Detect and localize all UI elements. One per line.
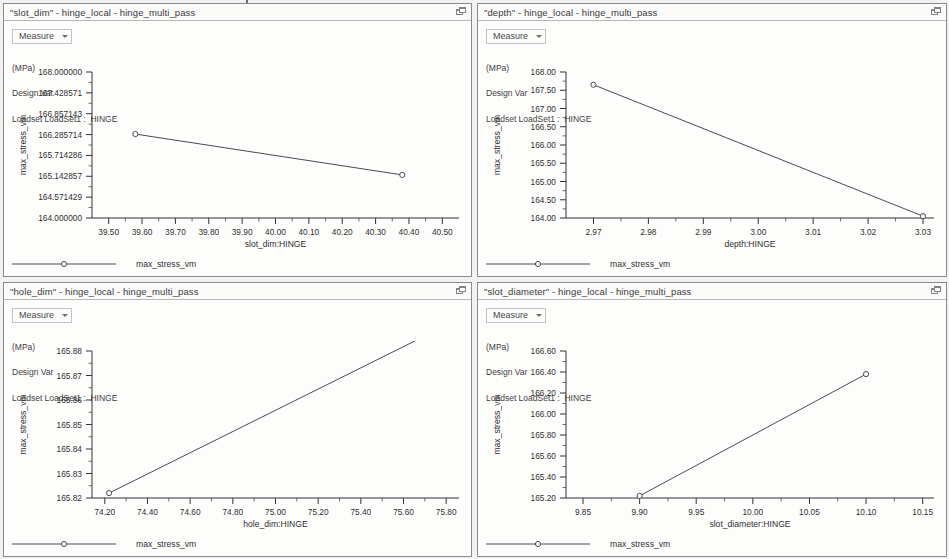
plot-axes: [566, 72, 934, 218]
data-point[interactable]: [400, 172, 405, 177]
x-tick-label: 9.95: [688, 507, 705, 517]
plot-svg: 168.00167.50167.00166.50166.00165.50165.…: [478, 62, 946, 276]
y-tick-label: 168.00: [531, 67, 557, 77]
measure-dropdown-label: Measure: [493, 31, 528, 41]
panel-title: "depth" - hinge_local - hinge_multi_pass: [484, 7, 931, 18]
plot-axes: [92, 351, 459, 498]
y-tick-label: 165.00: [531, 177, 557, 187]
restore-window-icon[interactable]: [456, 286, 467, 297]
plot-panel-0[interactable]: "slot_dim" - hinge_local - hinge_multi_p…: [3, 3, 472, 277]
restore-window-icon[interactable]: [456, 7, 467, 18]
y-tick-label: 165.80: [531, 430, 557, 440]
y-tick-label: 165.84: [57, 444, 83, 454]
y-tick-label: 167.00: [531, 104, 557, 114]
restore-window-icon[interactable]: [931, 7, 942, 18]
measure-dropdown-label: Measure: [19, 310, 54, 320]
chevron-down-icon: [536, 314, 542, 317]
y-tick-label: 166.00: [531, 140, 557, 150]
y-tick-label: 164.571429: [38, 192, 82, 202]
y-axis-title: max_stress_vm: [18, 115, 28, 175]
measure-dropdown-label: Measure: [19, 31, 54, 41]
plot-panel-1[interactable]: "depth" - hinge_local - hinge_multi_pass…: [477, 3, 947, 277]
panel-toolbar: Measure: [478, 21, 946, 44]
measure-dropdown[interactable]: Measure: [486, 308, 546, 323]
plot-panel-2[interactable]: "hole_dim" - hinge_local - hinge_multi_p…: [3, 282, 472, 557]
x-tick-label: 10.10: [856, 507, 877, 517]
x-tick-label: 2.99: [695, 227, 712, 237]
y-tick-label: 167.50: [531, 85, 557, 95]
y-tick-label: 165.86: [57, 395, 83, 405]
measure-dropdown-label: Measure: [493, 310, 528, 320]
measure-dropdown[interactable]: Measure: [12, 308, 72, 323]
x-axis-title: hole_dim:HINGE: [243, 519, 308, 529]
restore-window-icon[interactable]: [931, 286, 942, 297]
x-tick-label: 9.90: [632, 507, 649, 517]
x-tick-label: 39.90: [232, 227, 253, 237]
plot-grid: "slot_dim" - hinge_local - hinge_multi_p…: [0, 0, 949, 559]
x-tick-label: 75.20: [308, 507, 329, 517]
x-tick-label: 75.40: [350, 507, 371, 517]
data-point[interactable]: [133, 131, 138, 136]
x-tick-label: 10.05: [799, 507, 820, 517]
panel-title: "slot_diameter" - hinge_local - hinge_mu…: [484, 286, 931, 297]
y-tick-label: 165.20: [531, 493, 557, 503]
x-tick-label: 3.03: [915, 227, 932, 237]
plot-area: 168.000000167.428571166.857143166.285714…: [4, 62, 471, 276]
y-tick-label: 165.82: [57, 493, 83, 503]
y-tick-label: 168.000000: [38, 67, 82, 77]
y-axis-title: max_stress_vm: [492, 115, 502, 175]
legend-marker-icon: [61, 261, 66, 266]
x-tick-label: 39.80: [198, 227, 219, 237]
y-tick-label: 165.142857: [38, 171, 82, 181]
x-tick-label: 10.15: [912, 507, 933, 517]
chevron-down-icon: [536, 35, 542, 38]
panel-titlebar[interactable]: "hole_dim" - hinge_local - hinge_multi_p…: [4, 283, 471, 300]
chevron-down-icon: [62, 35, 68, 38]
x-tick-label: 74.60: [180, 507, 201, 517]
x-axis-title: slot_diameter:HINGE: [709, 519, 790, 529]
legend-label: max_stress_vm: [610, 259, 670, 269]
plot-panel-3[interactable]: "slot_diameter" - hinge_local - hinge_mu…: [477, 282, 947, 557]
panel-titlebar[interactable]: "slot_diameter" - hinge_local - hinge_mu…: [478, 283, 946, 300]
panel-titlebar[interactable]: "slot_dim" - hinge_local - hinge_multi_p…: [4, 4, 471, 21]
x-tick-label: 40.10: [298, 227, 319, 237]
y-tick-label: 166.60: [531, 346, 557, 356]
x-tick-label: 74.20: [94, 507, 115, 517]
legend-label: max_stress_vm: [136, 259, 196, 269]
data-point[interactable]: [863, 372, 868, 377]
legend-marker-icon: [61, 541, 66, 546]
x-tick-label: 40.30: [365, 227, 386, 237]
data-point[interactable]: [591, 82, 596, 87]
chevron-down-icon: [62, 314, 68, 317]
series-line: [109, 341, 429, 493]
y-tick-label: 164.00: [531, 213, 557, 223]
measure-dropdown[interactable]: Measure: [12, 29, 72, 44]
x-tick-label: 75.80: [436, 507, 457, 517]
y-axis-title: max_stress_vm: [18, 394, 28, 454]
x-tick-label: 39.60: [132, 227, 153, 237]
y-tick-label: 166.00: [531, 409, 557, 419]
x-axis-title: slot_dim:HINGE: [245, 239, 307, 249]
data-point[interactable]: [920, 214, 925, 219]
x-tick-label: 39.70: [165, 227, 186, 237]
y-tick-label: 165.85: [57, 420, 83, 430]
data-point[interactable]: [637, 493, 642, 498]
panel-toolbar: Measure: [478, 300, 946, 323]
panel-title: "hole_dim" - hinge_local - hinge_multi_p…: [10, 286, 456, 297]
y-tick-label: 165.60: [531, 451, 557, 461]
x-tick-label: 74.40: [137, 507, 158, 517]
x-tick-label: 74.80: [222, 507, 243, 517]
plot-svg: 165.88165.87165.86165.85165.84165.83165.…: [4, 341, 471, 556]
x-tick-label: 75.00: [265, 507, 286, 517]
x-tick-label: 9.85: [575, 507, 592, 517]
x-tick-label: 3.01: [805, 227, 822, 237]
panel-titlebar[interactable]: "depth" - hinge_local - hinge_multi_pass: [478, 4, 946, 21]
x-tick-label: 40.00: [265, 227, 286, 237]
measure-dropdown[interactable]: Measure: [486, 29, 546, 44]
series-line: [640, 374, 866, 496]
y-tick-label: 165.83: [57, 469, 83, 479]
data-point[interactable]: [106, 491, 111, 496]
y-tick-label: 165.714286: [38, 150, 82, 160]
series-line: [593, 85, 923, 216]
x-tick-label: 3.00: [750, 227, 767, 237]
